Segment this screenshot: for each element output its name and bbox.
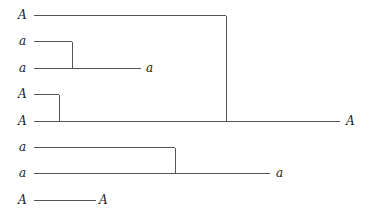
leaf-label-5: A	[17, 114, 27, 128]
merge-m4-result-label: a	[276, 166, 283, 180]
merge-m1-result-label: a	[146, 61, 153, 75]
tree-diagram: A a a A A a a A a A a A	[0, 0, 373, 216]
merge-m3-result-label: A	[345, 114, 355, 128]
leaf-label-3: a	[19, 61, 26, 75]
leaf-label-7: a	[19, 166, 26, 180]
leaf-label-4: A	[17, 87, 27, 101]
merge-m5-result-label: A	[98, 193, 108, 207]
leaf-label-6: a	[19, 140, 26, 154]
leaf-label-1: A	[17, 8, 27, 22]
leaf-label-8: A	[17, 193, 27, 207]
leaf-label-2: a	[19, 34, 26, 48]
